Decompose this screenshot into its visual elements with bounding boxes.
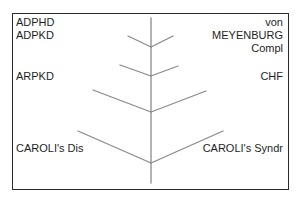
label-compl: Compl <box>251 42 283 55</box>
branch-right-2 <box>151 66 178 76</box>
label-adphd: ADPHD <box>16 16 55 29</box>
label-von: von <box>265 16 283 29</box>
label-arpkd: ARPKD <box>16 70 54 83</box>
label-adpkd: ADPKD <box>16 29 54 42</box>
branch-left-3 <box>93 90 151 112</box>
label-meyenburg: MEYENBURG <box>212 29 283 42</box>
label-carolis-disease: CAROLI's Dis <box>16 142 84 155</box>
branch-left-4 <box>78 131 151 163</box>
branch-left-1 <box>128 36 151 47</box>
label-carolis-syndrome: CAROLI's Syndr <box>203 142 283 155</box>
label-chf: CHF <box>260 70 283 83</box>
branch-right-3 <box>151 91 206 112</box>
branch-right-1 <box>151 36 173 47</box>
branch-left-2 <box>120 65 151 76</box>
